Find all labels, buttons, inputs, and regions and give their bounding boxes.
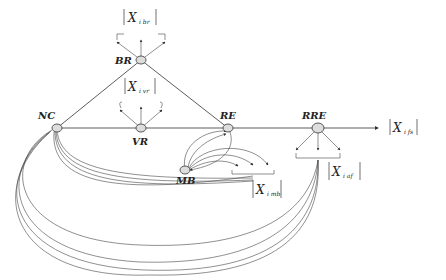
output-label-br: X i br [124, 9, 156, 25]
edge-br-re [141, 60, 228, 128]
label-br: BR [114, 55, 132, 66]
label-nc: NC [37, 110, 55, 121]
node-vr [136, 124, 146, 132]
svg-text:i fs: i fs [404, 128, 413, 136]
flow-diagram: NC BR VR RE MB RRE X i br X i vr X i mb … [0, 0, 446, 280]
svg-text:i br: i br [139, 18, 151, 25]
svg-text:X: X [255, 183, 265, 197]
output-label-mb: X i mb [253, 180, 281, 198]
svg-text:X: X [127, 80, 137, 94]
node-br [136, 56, 146, 64]
label-vr: VR [132, 136, 148, 147]
diagram-svg: NC BR VR RE MB RRE X i br X i vr X i mb … [0, 0, 446, 280]
label-mb: MB [175, 175, 196, 186]
main-edges [57, 60, 378, 128]
output-label-vr: X i vr [125, 78, 155, 94]
nodes [52, 56, 324, 174]
nc-mb-curves [54, 130, 253, 185]
svg-text:i af: i af [343, 172, 354, 180]
node-rre [312, 123, 324, 133]
nc-rre-curves [16, 130, 319, 275]
svg-text:X: X [127, 11, 137, 25]
svg-text:i mb: i mb [267, 190, 281, 197]
svg-text:i vr: i vr [139, 87, 150, 94]
edge-nc-br [57, 60, 141, 128]
label-re: RE [219, 110, 236, 121]
node-mb [180, 166, 190, 174]
label-rre: RRE [301, 110, 327, 121]
svg-text:X: X [392, 121, 402, 135]
re-mb-loops [184, 131, 274, 174]
output-label-af: X i af [329, 162, 360, 180]
svg-text:X: X [331, 165, 341, 179]
node-re [223, 124, 233, 132]
output-label-fs: X i fs [390, 119, 417, 136]
node-nc [52, 124, 62, 132]
